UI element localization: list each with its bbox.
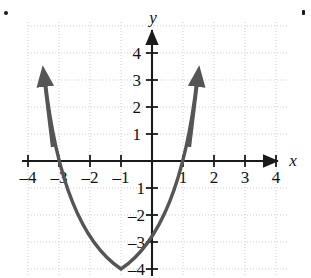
- y-tick-label: 1: [133, 125, 142, 144]
- x-tick-labels: –4 –3 –2 –1 1 2 3 4: [19, 168, 281, 187]
- x-tick-label: 4: [272, 168, 281, 187]
- x-tick-label: –4: [19, 168, 38, 187]
- corner-dot-right-icon: [302, 10, 305, 15]
- curve-arrow-right: [189, 76, 198, 147]
- y-tick-label: 2: [133, 98, 142, 117]
- x-tick-label: –1: [112, 168, 130, 187]
- curve-arrow-left: [44, 76, 53, 147]
- y-tick-label: 1: [137, 179, 146, 198]
- x-tick-label: –2: [81, 168, 99, 187]
- coordinate-plane: –4 –3 –2 –1 1 2 3 4 4 3 2 1 1 –2 –3 –4 x…: [0, 0, 311, 278]
- graph-figure: –4 –3 –2 –1 1 2 3 4 4 3 2 1 1 –2 –3 –4 x…: [0, 0, 311, 278]
- y-tick-label: –2: [127, 206, 145, 225]
- x-tick-label: 2: [210, 168, 219, 187]
- y-tick-label: 4: [133, 44, 142, 63]
- grid-lines: [28, 22, 288, 276]
- y-tick-label: 3: [133, 71, 142, 90]
- corner-dot-left-icon: [4, 11, 8, 15]
- x-axis-label: x: [288, 151, 297, 170]
- x-tick-label: 3: [241, 168, 250, 187]
- y-axis-label: y: [147, 8, 157, 27]
